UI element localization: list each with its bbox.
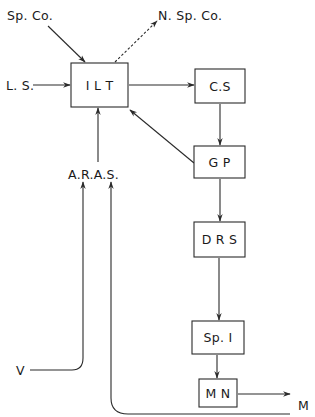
- node-cs-label: C.S: [209, 79, 231, 94]
- node-spi: Sp. I: [192, 321, 244, 354]
- label-v: V: [16, 363, 25, 378]
- node-mn-label: M N: [205, 386, 230, 401]
- node-drs-label: D R S: [202, 232, 238, 247]
- node-ilt: I L T: [71, 63, 128, 107]
- label-aras: A.R.A.S.: [68, 167, 119, 182]
- node-drs: D R S: [194, 222, 245, 257]
- label-spco: Sp. Co.: [7, 8, 53, 23]
- diagram-canvas: I L T C.S G P D R S Sp. I M N Sp. Co. N.…: [0, 0, 315, 417]
- node-gp-label: G P: [208, 155, 230, 170]
- label-nspco: N. Sp. Co.: [158, 8, 222, 23]
- label-m: M: [298, 398, 309, 413]
- node-spi-label: Sp. I: [203, 330, 232, 345]
- edge-spco-to-ilt: [48, 26, 85, 62]
- edge-gp-to-ilt: [130, 110, 194, 163]
- flow-diagram: I L T C.S G P D R S Sp. I M N Sp. Co. N.…: [0, 0, 315, 417]
- edge-ilt-to-nspco: [115, 21, 157, 62]
- node-cs: C.S: [195, 69, 245, 103]
- edge-v-to-aras: [30, 182, 83, 370]
- node-ilt-label: I L T: [86, 78, 114, 93]
- node-gp: G P: [194, 146, 245, 178]
- label-ls: L. S.: [6, 78, 34, 93]
- node-mn: M N: [199, 379, 237, 407]
